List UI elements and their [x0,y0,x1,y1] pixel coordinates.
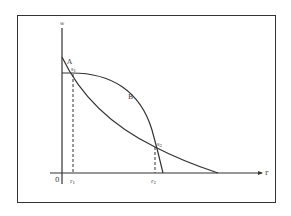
diagram-plot: w r 0 A B s1 s2 r1 r2 [0,0,291,216]
y-axis-label: w [60,20,65,26]
x-axis-arrow-icon [258,171,263,175]
curve-a-label: A [66,58,73,66]
r2-tick-label: r2 [151,178,156,185]
s1-label: s1 [71,66,76,73]
x-axis-label: r [265,169,269,177]
r1-tick-label: r1 [70,178,75,185]
curve-b [62,73,163,173]
s2-label: s2 [157,141,163,148]
curve-a [62,57,218,173]
curve-b-label: B [128,93,133,101]
origin-label: 0 [55,176,59,184]
